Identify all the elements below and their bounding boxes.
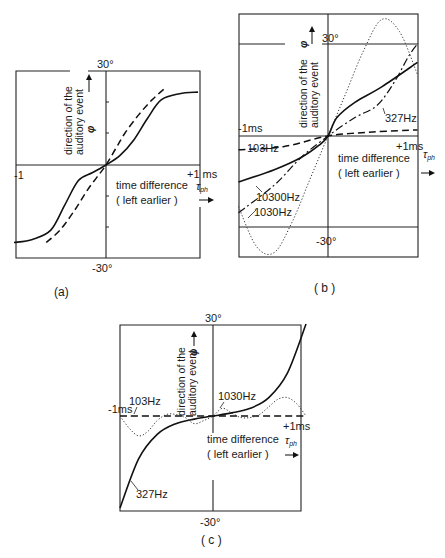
panel-a-x-arrow-icon bbox=[199, 197, 214, 203]
panel-c-x-arrow-icon bbox=[285, 452, 299, 458]
panel-a-y-arrow-icon bbox=[86, 74, 92, 92]
panel-b-x-label-line1: time difference bbox=[338, 152, 410, 164]
panel-c: 30° -30° -1ms +1ms direction of the audi… bbox=[108, 312, 311, 547]
panel-b-y-label: direction of the auditory event φ bbox=[297, 40, 320, 128]
figure-canvas: 30° -30° -1 +1 ms direction of the audit… bbox=[0, 0, 445, 558]
panel-a-x-label-line2: ( left earlier ) bbox=[116, 194, 178, 206]
svg-text:φ: φ bbox=[84, 125, 96, 133]
panel-a: 30° -30° -1 +1 ms direction of the audit… bbox=[14, 58, 218, 299]
panel-c-y-bottom-label: -30° bbox=[200, 516, 220, 528]
panel-c-x-label-line1: time difference bbox=[207, 433, 279, 445]
panel-b-x-right-label: +1ms bbox=[396, 140, 424, 152]
panel-c-x-label-line2: ( left earlier ) bbox=[207, 448, 269, 460]
panel-a-y-bottom-label: -30° bbox=[92, 262, 112, 274]
panel-c-frame bbox=[120, 325, 301, 511]
panel-c-x-symbol: τph bbox=[285, 434, 297, 448]
panel-c-label-103hz: 103Hz bbox=[129, 395, 161, 407]
panel-b-y-bottom-label: -30° bbox=[316, 235, 336, 247]
svg-text:φ: φ bbox=[297, 40, 309, 48]
panel-b-x-left-label: -1ms bbox=[238, 122, 263, 134]
svg-text:auditory event: auditory event bbox=[186, 350, 198, 416]
panel-b-x-label-line2: ( left earlier ) bbox=[338, 167, 400, 179]
panel-b-label-1030hz: 1030Hz bbox=[254, 206, 292, 218]
panel-c-label-1030hz: 1030Hz bbox=[218, 390, 256, 402]
panel-a-x-left-label: -1 bbox=[14, 169, 24, 181]
panel-a-caption: (a) bbox=[54, 285, 69, 299]
panel-c-x-right-label: +1ms bbox=[283, 420, 311, 432]
panel-a-y-label: direction of the auditory event φ bbox=[62, 86, 96, 155]
panel-c-caption: ( c ) bbox=[201, 533, 222, 547]
panel-b-y-top-label: 30° bbox=[322, 32, 339, 44]
panel-b-x-arrow-icon bbox=[421, 170, 435, 176]
svg-text:auditory event: auditory event bbox=[308, 62, 320, 128]
panel-a-y-top-label: 30° bbox=[97, 58, 114, 70]
panel-a-x-right-label: +1 ms bbox=[187, 168, 218, 180]
panel-b-x-symbol: τph bbox=[423, 148, 435, 162]
panel-c-y-top-label: 30° bbox=[205, 312, 222, 324]
panel-a-x-symbol: τph bbox=[196, 180, 208, 194]
panel-c-label-327hz: 327Hz bbox=[136, 488, 168, 500]
panel-b: 30° -30° -1ms +1ms direction of the audi… bbox=[238, 14, 435, 295]
panel-c-y-symbol: φ bbox=[187, 348, 199, 356]
panel-b-label-103hz: 103Hz bbox=[247, 142, 279, 154]
panel-c-y-arrow-icon bbox=[191, 331, 197, 346]
panel-b-label-327hz: 327Hz bbox=[385, 112, 417, 124]
panel-b-label-10300hz: 10300Hz bbox=[256, 191, 300, 203]
panel-c-y-label: direction of the auditory event bbox=[175, 347, 198, 416]
panel-b-y-arrow-icon bbox=[309, 26, 315, 44]
panel-a-x-label-line1: time difference bbox=[116, 179, 188, 191]
panel-b-caption: ( b ) bbox=[314, 281, 335, 295]
svg-text:auditory event: auditory event bbox=[73, 89, 85, 155]
